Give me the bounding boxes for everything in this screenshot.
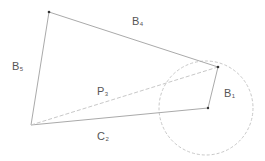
label-b1-sub: 1: [232, 93, 235, 99]
point-center: [207, 107, 209, 109]
label-b1-base: B: [224, 87, 231, 99]
edge-b5: [31, 12, 49, 125]
label-b5-base: B: [12, 60, 19, 72]
label-b5: B5: [12, 61, 23, 72]
label-p3-sub: 3: [105, 91, 108, 97]
label-c2: C2: [97, 131, 109, 142]
diagram-canvas: B5 B4 P3 C2 B1: [0, 0, 265, 161]
label-b4-base: B: [132, 15, 139, 27]
label-p3-base: P: [97, 85, 104, 97]
label-b4-sub: 4: [140, 21, 143, 27]
label-b5-sub: 5: [20, 66, 23, 72]
point-top-left: [48, 11, 51, 14]
label-b1: B1: [224, 88, 235, 99]
label-c2-sub: 2: [105, 136, 108, 142]
label-b4: B4: [132, 16, 143, 27]
label-p3: P3: [97, 86, 108, 97]
label-c2-base: C: [97, 130, 105, 142]
edge-b1: [208, 67, 218, 108]
point-right: [217, 66, 220, 69]
